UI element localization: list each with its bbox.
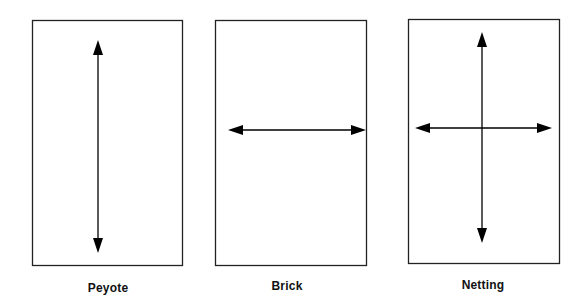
brick-box (216, 21, 367, 266)
panel-netting (409, 20, 560, 264)
peyote-label: Peyote (88, 281, 129, 295)
netting-box (409, 20, 560, 264)
brick-label: Brick (271, 279, 302, 293)
panel-peyote (33, 21, 183, 266)
peyote-box (33, 21, 183, 266)
netting-label: Netting (462, 278, 505, 292)
panel-brick (216, 21, 367, 266)
stitch-direction-diagram (0, 0, 585, 306)
